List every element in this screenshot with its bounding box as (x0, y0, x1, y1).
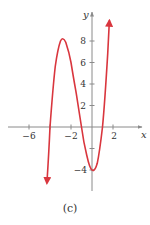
x-tick-label: 2 (111, 131, 117, 141)
cubic-function-graph: −6 −2 2 8 6 4 2 −4 x y (c) (0, 0, 150, 225)
x-tick-label: −2 (64, 131, 77, 141)
y-tick-label: 8 (80, 36, 86, 46)
figure-caption: (c) (63, 202, 78, 215)
function-curve (47, 20, 110, 183)
y-tick-label: 4 (80, 79, 86, 89)
y-tick-label: 6 (80, 58, 86, 68)
y-tick-label: 2 (80, 101, 86, 111)
y-axis-label: y (82, 9, 89, 20)
y-tick-label: −4 (74, 165, 88, 175)
x-tick-label: −6 (22, 131, 36, 141)
x-axis-label: x (141, 129, 147, 140)
